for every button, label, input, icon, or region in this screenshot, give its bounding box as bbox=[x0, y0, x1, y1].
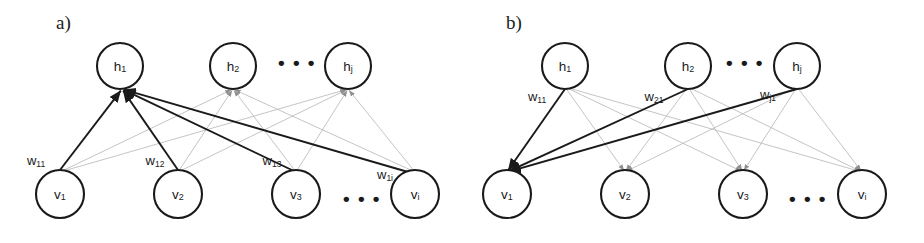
panel-label-a: a) bbox=[56, 12, 71, 34]
node-v2[interactable]: v2 bbox=[154, 170, 202, 218]
node-hj[interactable]: hj bbox=[774, 43, 820, 89]
visible-layer-ellipsis: • • • bbox=[343, 188, 381, 209]
weight-label-w1i: w1i bbox=[376, 167, 393, 183]
node-vi[interactable]: vi bbox=[391, 170, 439, 218]
faint-edge bbox=[565, 87, 624, 171]
node-h1[interactable]: h1 bbox=[542, 43, 588, 89]
rbm-diagram-svg: h1h2hjv1v2v3vih1h2hjv1v2v3vi • • •• • •w… bbox=[0, 0, 924, 243]
node-h1[interactable]: h1 bbox=[97, 43, 143, 89]
weight-label-w21: w21 bbox=[644, 89, 664, 105]
faint-edge bbox=[688, 87, 742, 171]
edges-layer bbox=[60, 87, 861, 174]
node-h2[interactable]: h2 bbox=[210, 43, 256, 89]
weight-label-w12: w12 bbox=[145, 153, 165, 169]
figure-root: h1h2hjv1v2v3vih1h2hjv1v2v3vi • • •• • •w… bbox=[0, 0, 924, 243]
visible-layer-ellipsis: • • • bbox=[789, 188, 827, 209]
node-v3[interactable]: v3 bbox=[719, 170, 767, 218]
weight-edge bbox=[60, 91, 121, 170]
node-hj[interactable]: hj bbox=[325, 43, 371, 89]
faint-edge bbox=[296, 90, 347, 172]
node-h2[interactable]: h2 bbox=[665, 43, 711, 89]
hidden-layer-ellipsis: • • • bbox=[278, 52, 316, 73]
node-v2[interactable]: v2 bbox=[601, 170, 649, 218]
weight-label-w11: w11 bbox=[527, 89, 546, 105]
weight-label-w11: w11 bbox=[26, 153, 45, 169]
weight-label-wj1: wj1 bbox=[759, 87, 776, 103]
node-v1[interactable]: v1 bbox=[36, 170, 84, 218]
node-v1[interactable]: v1 bbox=[483, 170, 531, 218]
faint-edge bbox=[349, 90, 415, 172]
faint-edge bbox=[565, 87, 861, 172]
node-vi[interactable]: vi bbox=[838, 170, 886, 218]
hidden-layer-ellipsis: • • • bbox=[726, 52, 764, 73]
panel-label-b: b) bbox=[506, 12, 522, 34]
weight-label-w13: w13 bbox=[262, 153, 282, 169]
node-v3[interactable]: v3 bbox=[272, 170, 320, 218]
faint-edge bbox=[797, 87, 861, 171]
